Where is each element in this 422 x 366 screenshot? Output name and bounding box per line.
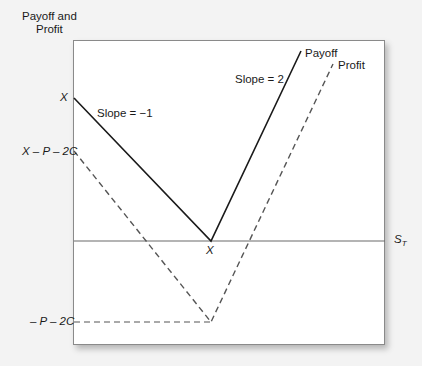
payoff-series-label: Payoff	[305, 47, 337, 59]
y-tick-x-minus-p-minus-2c: X – P – 2C	[22, 145, 77, 157]
slope-right-annotation: Slope = 2	[235, 73, 284, 85]
x-axis-label: ST	[394, 233, 407, 248]
y-tick-neg-p-minus-2c: – P – 2C	[30, 315, 74, 327]
y-axis-label: Payoff and Profit	[22, 10, 77, 36]
y-tick-x: X	[60, 91, 68, 103]
profit-line	[74, 64, 333, 322]
y-axis-label-line1: Payoff and	[22, 10, 77, 23]
x-tick-strike: X	[206, 244, 214, 256]
profit-series-label: Profit	[338, 59, 365, 71]
x-axis-label-main: S	[394, 233, 402, 245]
y-axis-label-line2: Profit	[22, 23, 77, 36]
plot-lines	[0, 0, 422, 366]
x-axis-label-sub: T	[402, 239, 407, 248]
slope-left-annotation: Slope = −1	[97, 107, 153, 119]
strap-payoff-diagram: Payoff and Profit X X – P – 2C – P – 2C …	[0, 0, 422, 366]
